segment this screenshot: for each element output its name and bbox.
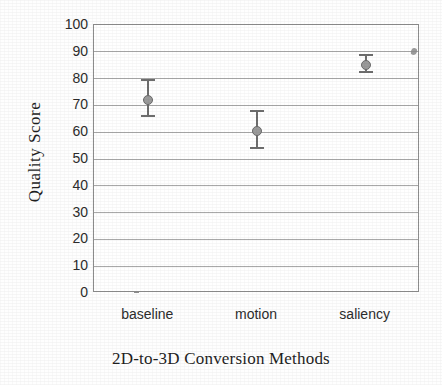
gridline xyxy=(94,185,418,186)
y-tick-label: 30 xyxy=(72,204,88,220)
errorbar-cap-upper xyxy=(250,110,264,112)
y-tick-label: 20 xyxy=(72,230,88,246)
gridline xyxy=(94,266,418,267)
y-tick-label: 70 xyxy=(72,96,88,112)
gridline xyxy=(94,212,418,213)
y-axis-title: Quality Score xyxy=(25,57,45,247)
y-tick-label: 40 xyxy=(72,177,88,193)
y-tick-label: 10 xyxy=(72,257,88,273)
gridline xyxy=(94,239,418,240)
y-tick-label: 80 xyxy=(72,70,88,86)
x-tick-label-saliency: saliency xyxy=(339,306,390,322)
y-axis: 0102030405060708090100 xyxy=(46,24,88,292)
errorbar-cap-upper xyxy=(359,54,373,56)
y-tick-label: 0 xyxy=(80,284,88,300)
y-tick-label: 60 xyxy=(72,123,88,139)
plot-area xyxy=(93,24,419,292)
marker-motion xyxy=(252,126,262,136)
chart-figure: Quality Score 0102030405060708090100 2D-… xyxy=(0,0,442,385)
marker-baseline xyxy=(143,95,153,105)
gridline xyxy=(94,159,418,160)
y-tick-label: 90 xyxy=(72,43,88,59)
gridline xyxy=(94,51,418,52)
x-tick-label-motion: motion xyxy=(235,306,277,322)
y-tick-label: 50 xyxy=(72,150,88,166)
errorbar-cap-lower xyxy=(250,147,264,149)
errorbar-cap-lower xyxy=(359,71,373,73)
errorbar-cap-lower xyxy=(141,115,155,117)
gridline xyxy=(94,105,418,106)
x-axis-title: 2D-to-3D Conversion Methods xyxy=(0,349,442,369)
marker-saliency xyxy=(361,60,371,70)
y-tick-label: 100 xyxy=(65,16,88,32)
errorbar-cap-upper xyxy=(141,79,155,81)
x-tick-label-baseline: baseline xyxy=(121,306,173,322)
